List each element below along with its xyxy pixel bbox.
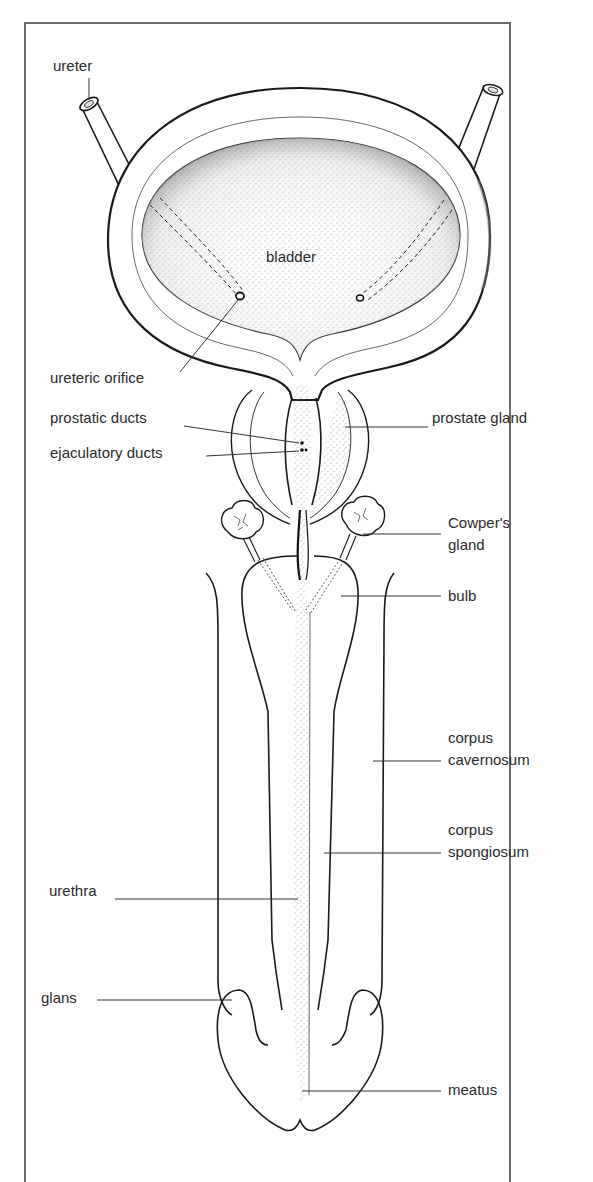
label-ejaculatory-ducts: ejaculatory ducts	[50, 443, 163, 462]
label-corpus-cavernosum-line2: cavernosum	[448, 750, 530, 769]
label-prostate-gland: prostate gland	[432, 408, 527, 427]
label-corpus-spongiosum-line2: spongiosum	[448, 842, 529, 861]
label-glans: glans	[41, 988, 77, 1007]
corpus-cavernosum-right	[370, 573, 394, 1015]
ureteric-orifice-right	[357, 295, 364, 301]
label-cowpers-gland-line2: gland	[448, 535, 485, 554]
cowpers-gland-right	[340, 496, 385, 560]
cowpers-gland-left	[222, 501, 264, 563]
label-urethra: urethra	[49, 881, 97, 900]
label-bulb: bulb	[448, 586, 476, 605]
urethra	[292, 385, 311, 1100]
ureteric-orifice-left	[236, 293, 244, 300]
label-ureter: ureter	[53, 56, 92, 75]
corpus-cavernosum-left	[206, 573, 232, 1015]
label-prostatic-ducts: prostatic ducts	[50, 408, 147, 427]
label-meatus: meatus	[448, 1080, 497, 1099]
label-cowpers-gland-line1: Cowper's	[448, 513, 510, 532]
label-ureteric-orifice: ureteric orifice	[50, 368, 144, 387]
label-corpus-cavernosum-line1: corpus	[448, 728, 493, 747]
label-corpus-spongiosum-line1: corpus	[448, 820, 493, 839]
label-bladder: bladder	[266, 247, 316, 266]
